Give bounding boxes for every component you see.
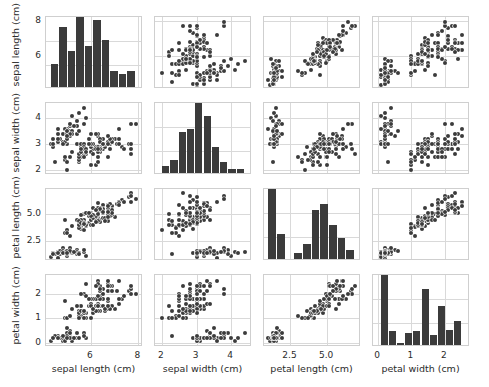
data-point [321,41,325,45]
data-point [413,155,417,159]
data-point [327,142,331,146]
data-point [456,57,460,61]
x-axis-label-petal_length: petal length (cm) [263,363,360,374]
data-point [453,50,457,54]
data-point [77,252,81,256]
data-point [426,64,430,68]
data-point [195,59,199,63]
data-point [195,195,199,199]
data-point [181,228,185,232]
histogram-bar [204,116,211,173]
gridline-horizontal [373,21,468,22]
data-point [383,71,387,75]
data-point [177,73,181,77]
data-point [300,160,304,164]
data-point [338,40,342,44]
data-point [70,307,74,311]
data-point [129,122,133,126]
data-point [129,142,133,146]
data-point [89,163,93,167]
data-point [409,62,413,66]
scatter-panel-sepal_length-vs-petal_width [372,16,469,88]
data-point [325,155,329,159]
data-point [115,289,119,293]
data-point [413,234,417,238]
data-point [68,155,72,159]
data-point [177,41,181,45]
y-tick-label: 4 [19,112,41,122]
data-point [96,160,100,164]
data-point [188,282,192,286]
y-tick-label: 1 [19,312,41,322]
data-point [409,168,413,172]
data-point [181,24,185,28]
data-point [280,132,284,136]
scatter-panel-petal_width-vs-sepal_length [45,274,142,346]
data-point [202,55,206,59]
x-tick-label: 2 [441,350,447,360]
data-point [274,106,278,110]
data-point [106,304,110,308]
scatter-panel-sepal_length-vs-petal_length [263,16,360,88]
histogram-bar [68,51,76,87]
data-point [440,155,444,159]
data-point [386,142,390,146]
y-axis-label-petal_length: petal length (cm) [10,187,21,259]
x-tick-label: 0 [374,350,380,360]
data-point [79,304,83,308]
data-point [195,221,199,225]
data-point [460,33,464,37]
scatter-panel-sepal_width-vs-sepal_length [45,102,142,174]
histogram-bar [76,17,84,87]
y-axis-label-petal_width: petal width (cm) [10,273,21,345]
x-tick-label: 1 [408,350,414,360]
data-point [82,228,86,232]
data-point [222,69,226,73]
data-point [89,316,93,320]
gridline-horizontal [373,170,468,171]
gridline-vertical [138,189,139,259]
data-point [181,191,185,195]
data-point [306,158,310,162]
data-point [70,150,74,154]
y-tick-label: 3 [19,138,41,148]
x-tick-label: 5.0 [319,350,333,360]
data-point [117,203,121,207]
data-point [82,155,86,159]
y-axis-label-sepal_width: sepal width (cm) [10,101,21,173]
data-point [101,142,105,146]
data-point [195,334,199,338]
gridline-vertical [162,103,163,173]
data-point [177,218,181,222]
data-point [134,197,138,201]
scatter-panel-sepal_width-vs-petal_length [263,102,360,174]
gridline-vertical [290,189,291,259]
histogram-bar [389,331,396,345]
histogram-bar [346,250,354,259]
data-point [77,316,81,320]
data-point [106,210,110,214]
data-point [315,50,319,54]
data-point [350,24,354,28]
data-point [318,299,322,303]
data-point [202,284,206,288]
gridline-vertical [231,17,232,87]
data-point [346,292,350,296]
data-point [280,336,284,340]
data-point [327,304,331,308]
data-point [233,68,237,72]
data-point [453,137,457,141]
data-point [202,82,206,86]
gridline-horizontal [46,118,141,119]
data-point [122,294,126,298]
histogram-panel-sepal_width [154,102,251,174]
data-point [77,111,81,115]
data-point [188,29,192,33]
histogram-bar [413,331,420,345]
data-point [212,334,216,338]
data-point [160,316,164,320]
histogram-bar [170,160,177,173]
data-point [191,59,195,63]
data-point [383,66,387,70]
data-point [383,111,387,115]
